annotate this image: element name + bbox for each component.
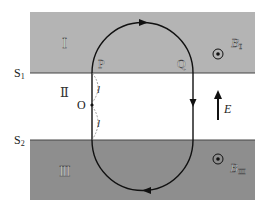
region-I-label: Ⅰ [62, 36, 67, 51]
field-E-label: E [223, 102, 232, 116]
region-II [30, 73, 255, 140]
distance-upper-label: l [97, 83, 100, 95]
point-Q-label: Q [177, 57, 186, 71]
boundary-S1-label: S1 [14, 66, 25, 81]
point-O-dot [90, 103, 93, 106]
physics-diagram: Ⅰ Ⅱ Ⅲ BⅠ BⅢ E S1 S2 P Q O l l [0, 0, 267, 209]
distance-lower-label: l [97, 117, 100, 129]
point-O-label: O [77, 98, 86, 112]
region-III-label: Ⅲ [59, 165, 71, 179]
region-II-label: Ⅱ [60, 85, 69, 100]
boundary-S2-label: S2 [14, 133, 25, 148]
point-P-label: P [98, 57, 105, 71]
